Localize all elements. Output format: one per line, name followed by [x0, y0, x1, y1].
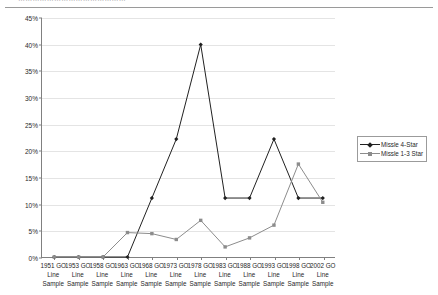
x-tick-mark	[177, 257, 178, 260]
series-1	[52, 42, 325, 259]
y-tick-label: 25%	[25, 121, 38, 128]
x-tick-mark	[226, 257, 227, 260]
series-2	[53, 162, 325, 258]
data-point	[150, 232, 153, 235]
x-tick-label: 1973 GOLineSample	[163, 261, 189, 289]
legend-label: Missle 1-3 Star	[380, 150, 423, 157]
x-tick-label: 1953 GOLineSample	[65, 261, 91, 289]
data-point	[150, 196, 154, 200]
data-point	[248, 236, 251, 239]
x-tick-label: 2002 GOLineSample	[310, 261, 336, 289]
x-tick-label: 1988 GOLineSample	[236, 261, 262, 289]
series-line	[54, 164, 323, 257]
data-point	[199, 42, 203, 46]
x-tick-mark	[250, 257, 251, 260]
x-tick-label: 1958 GOLineSample	[89, 261, 115, 289]
x-tick-mark	[275, 257, 276, 260]
legend-marker	[367, 142, 373, 148]
data-point	[297, 162, 300, 165]
line-chart: 0%5%10%15%20%25%30%35%40%45% 1951 GOLine…	[0, 9, 438, 295]
y-tick-label: 10%	[25, 201, 38, 208]
x-tick-label: 1978 GOLineSample	[187, 261, 213, 289]
x-tick-mark	[324, 257, 325, 260]
data-point	[199, 219, 202, 222]
data-point	[175, 238, 178, 241]
x-tick-mark	[152, 257, 153, 260]
data-point	[223, 196, 227, 200]
data-point	[101, 255, 104, 258]
y-tick-label: 40%	[25, 41, 38, 48]
legend-item-2[interactable]: Missle 1-3 Star	[360, 149, 423, 158]
y-tick-mark	[39, 258, 42, 259]
data-point	[174, 137, 178, 141]
x-tick-label: 1963 GOLineSample	[114, 261, 140, 289]
legend-item-1[interactable]: Missle 4-Star	[360, 140, 423, 149]
data-point	[247, 196, 251, 200]
x-tick-label: 1993 GOLineSample	[261, 261, 287, 289]
x-tick-label: 1951 GOLineSample	[40, 261, 66, 289]
plot-area: 0%5%10%15%20%25%30%35%40%45%	[41, 18, 335, 258]
series-layer	[42, 18, 335, 257]
y-tick-label: 0%	[29, 255, 38, 262]
data-point	[321, 201, 324, 204]
x-tick-label: 1968 GOLineSample	[138, 261, 164, 289]
x-tick-label: 1998 GOLineSample	[285, 261, 311, 289]
diamond-marker-icon	[360, 140, 380, 149]
square-marker-icon	[360, 149, 380, 158]
data-point	[77, 255, 80, 258]
header-divider-rule	[5, 7, 433, 8]
data-point	[272, 223, 275, 226]
x-tick-mark	[299, 257, 300, 260]
data-point	[53, 255, 56, 258]
clipped-header-text: ………………………………………	[18, 0, 126, 2]
x-tick-label: 1983 GOLineSample	[212, 261, 238, 289]
series-line	[54, 45, 323, 257]
data-point	[125, 255, 129, 259]
legend-label: Missle 4-Star	[380, 141, 418, 148]
y-tick-label: 45%	[25, 15, 38, 22]
legend-marker	[368, 152, 372, 156]
data-point	[296, 196, 300, 200]
y-tick-label: 30%	[25, 95, 38, 102]
chart-legend: Missle 4-StarMissle 1-3 Star	[357, 136, 427, 162]
x-axis-labels: 1951 GOLineSample1953 GOLineSample1958 G…	[41, 261, 335, 295]
y-tick-label: 15%	[25, 175, 38, 182]
y-tick-label: 35%	[25, 68, 38, 75]
data-point	[223, 245, 226, 248]
data-point	[126, 231, 129, 234]
data-point	[272, 137, 276, 141]
clipped-header-strip: ………………………………………	[0, 0, 438, 9]
y-tick-label: 20%	[25, 148, 38, 155]
x-tick-mark	[201, 257, 202, 260]
y-tick-label: 5%	[29, 228, 38, 235]
